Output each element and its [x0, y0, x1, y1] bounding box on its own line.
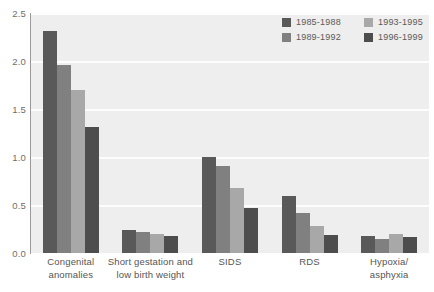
bar	[164, 236, 178, 253]
bar-group	[122, 13, 178, 253]
legend-swatch-icon	[282, 18, 291, 27]
bar	[136, 232, 150, 253]
legend-label: 1996-1999	[378, 32, 423, 42]
bar	[150, 234, 164, 253]
y-axis-tick-label: 2.0	[12, 56, 26, 67]
bar	[216, 166, 230, 253]
bar-group	[282, 13, 338, 253]
bar	[324, 235, 338, 253]
bar	[230, 188, 244, 253]
bar-group	[202, 13, 258, 253]
x-axis-category-label-line: asphyxia	[337, 269, 434, 282]
bar	[403, 237, 417, 253]
y-axis: 0.00.51.01.52.02.5	[0, 0, 30, 292]
plot-area	[31, 13, 429, 253]
legend-label: 1993-1995	[378, 17, 423, 27]
bar	[122, 230, 136, 253]
bar-chart: 0.00.51.01.52.02.5 CongenitalanomaliesSh…	[0, 0, 434, 292]
bar	[244, 208, 258, 253]
legend-item: 1985-1988	[282, 17, 341, 27]
legend-swatch-icon	[282, 33, 291, 42]
legend-item: 1989-1992	[282, 32, 341, 42]
bar	[375, 239, 389, 253]
bar	[296, 213, 310, 253]
bar-groups	[31, 13, 429, 253]
legend-label: 1989-1992	[296, 32, 341, 42]
bar	[57, 65, 71, 253]
bar-group	[43, 13, 99, 253]
bar	[85, 127, 99, 253]
x-axis-labels: CongenitalanomaliesShort gestation andlo…	[31, 256, 429, 292]
y-axis-tick-label: 0.5	[12, 200, 26, 211]
legend-swatch-icon	[364, 33, 373, 42]
chart-legend: 1985-19881989-19921993-19951996-1999	[282, 17, 430, 49]
y-axis-tick-label: 1.5	[12, 104, 26, 115]
bar	[282, 196, 296, 253]
bar	[43, 31, 57, 253]
bar	[389, 234, 403, 253]
legend-item: 1996-1999	[364, 32, 423, 42]
legend-label: 1985-1988	[296, 17, 341, 27]
y-axis-tick-label: 1.0	[12, 152, 26, 163]
legend-swatch-icon	[364, 18, 373, 27]
x-axis-category-label: Hypoxia/asphyxia	[337, 256, 434, 281]
x-axis-category-label-line: low birth weight	[99, 269, 203, 282]
bar-group	[361, 13, 417, 253]
x-axis-category-label-line: Hypoxia/	[337, 256, 434, 269]
bar	[71, 90, 85, 253]
bar	[202, 157, 216, 253]
bar	[361, 236, 375, 253]
legend-item: 1993-1995	[364, 17, 423, 27]
bar	[310, 226, 324, 253]
y-axis-tick-label: 2.5	[12, 8, 26, 19]
